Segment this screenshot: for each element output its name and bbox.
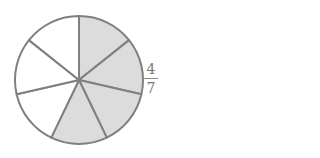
fraction-label: 4 7: [142, 62, 160, 95]
numerator: 4: [142, 62, 160, 76]
fraction-bar: [144, 78, 158, 79]
denominator: 7: [142, 81, 160, 95]
